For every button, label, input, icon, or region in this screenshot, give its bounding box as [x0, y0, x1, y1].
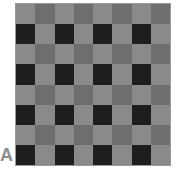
- grid-cell: [151, 85, 170, 105]
- grid-cell: [35, 125, 54, 145]
- grid-cell: [74, 64, 93, 84]
- grid-cell: [35, 105, 54, 125]
- grid-cell: [151, 24, 170, 44]
- grid-cell: [16, 4, 35, 24]
- grid-cell: [151, 64, 170, 84]
- grid-cell: [16, 24, 35, 44]
- grid-cell: [55, 85, 74, 105]
- grid-cell: [55, 4, 74, 24]
- grid-cell: [35, 4, 54, 24]
- grid-cell: [112, 105, 131, 125]
- grid-cell: [55, 105, 74, 125]
- grid-cell: [132, 125, 151, 145]
- grid-cell: [16, 125, 35, 145]
- grid-cell: [112, 24, 131, 44]
- grid-cell: [35, 85, 54, 105]
- grid-cell: [132, 44, 151, 64]
- grid-cell: [93, 64, 112, 84]
- grid-cell: [93, 105, 112, 125]
- grid-cell: [132, 4, 151, 24]
- grid-cell: [16, 44, 35, 64]
- grid-cell: [74, 145, 93, 165]
- grid-cell: [35, 24, 54, 44]
- grid-cell: [112, 85, 131, 105]
- grid-cell: [16, 64, 35, 84]
- grid-cell: [35, 44, 54, 64]
- grid-cell: [132, 24, 151, 44]
- grid-cell: [55, 44, 74, 64]
- grid-cell: [35, 145, 54, 165]
- grid-cell: [132, 145, 151, 165]
- grid-cell: [151, 145, 170, 165]
- grid-cell: [112, 145, 131, 165]
- grid-cell: [151, 4, 170, 24]
- grid-cell: [151, 44, 170, 64]
- grid-cell: [16, 145, 35, 165]
- grid-cell: [74, 85, 93, 105]
- grid-cell: [55, 64, 74, 84]
- grid-cell: [112, 125, 131, 145]
- grid-cell: [55, 145, 74, 165]
- grid-cell: [132, 105, 151, 125]
- grid-cell: [74, 105, 93, 125]
- grid-cell: [112, 4, 131, 24]
- checkerboard-grid: [16, 4, 170, 165]
- grid-cell: [151, 105, 170, 125]
- grid-cell: [151, 125, 170, 145]
- grid-cell: [93, 145, 112, 165]
- grid-cell: [112, 44, 131, 64]
- grid-cell: [55, 24, 74, 44]
- grid-cell: [112, 64, 131, 84]
- grid-cell: [93, 44, 112, 64]
- panel-label: A: [0, 146, 13, 164]
- grid-cell: [74, 125, 93, 145]
- grid-cell: [132, 64, 151, 84]
- grid-cell: [93, 125, 112, 145]
- grid-cell: [93, 85, 112, 105]
- grid-cell: [93, 4, 112, 24]
- grid-cell: [93, 24, 112, 44]
- grid-cell: [16, 105, 35, 125]
- grid-cell: [74, 4, 93, 24]
- grid-cell: [74, 44, 93, 64]
- grid-cell: [132, 85, 151, 105]
- grid-cell: [35, 64, 54, 84]
- grid-cell: [16, 85, 35, 105]
- grid-cell: [74, 24, 93, 44]
- grid-cell: [55, 125, 74, 145]
